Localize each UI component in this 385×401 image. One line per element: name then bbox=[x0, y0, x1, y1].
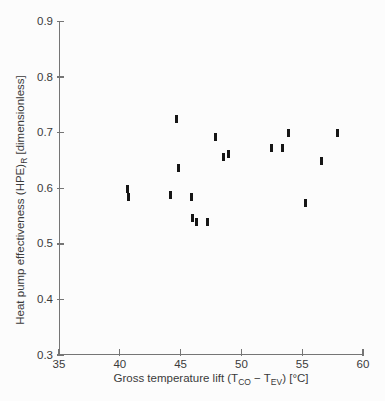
data-point-marker bbox=[169, 191, 172, 199]
y-axis-tick bbox=[57, 76, 64, 77]
x-axis-tick bbox=[119, 349, 120, 356]
y-axis-title-subscript: R bbox=[19, 158, 29, 164]
x-axis-tick-label: 60 bbox=[357, 358, 370, 371]
data-point-marker bbox=[304, 199, 307, 207]
x-axis-title-units: ) [°C] bbox=[282, 372, 308, 384]
data-point-marker bbox=[227, 150, 230, 158]
y-axis-tick bbox=[57, 243, 64, 244]
plot-area bbox=[59, 22, 363, 356]
x-axis-tick-label: 35 bbox=[53, 358, 66, 371]
x-axis-tick bbox=[180, 349, 181, 356]
x-axis-tick bbox=[241, 349, 242, 356]
x-axis-tick-label: 50 bbox=[235, 358, 248, 371]
data-point-marker bbox=[127, 193, 130, 201]
data-point-marker bbox=[214, 133, 217, 141]
y-axis-tick-label: 0.9 bbox=[11, 15, 53, 28]
x-axis-tick-label: 45 bbox=[174, 358, 187, 371]
data-point-marker bbox=[270, 144, 273, 152]
data-point-marker bbox=[287, 129, 290, 137]
data-point-marker bbox=[320, 157, 323, 165]
y-axis-tick bbox=[57, 354, 64, 355]
data-point-marker bbox=[281, 144, 284, 152]
x-axis-tick-label: 55 bbox=[296, 358, 309, 371]
x-axis-title: Gross temperature lift (TCO − TEV) [°C] bbox=[114, 372, 309, 384]
x-axis-tick bbox=[302, 349, 303, 356]
data-point-marker bbox=[177, 164, 180, 172]
x-axis-title-subscript-co: CO bbox=[238, 377, 251, 387]
x-axis-tick-label: 40 bbox=[113, 358, 126, 371]
y-axis-tick-label: 0.3 bbox=[11, 349, 53, 362]
data-point-marker bbox=[206, 218, 209, 226]
y-axis-title-units: [dimensionless] bbox=[14, 75, 26, 157]
y-axis-tick bbox=[57, 132, 64, 133]
data-point-marker bbox=[175, 115, 178, 123]
data-point-marker bbox=[336, 129, 339, 137]
y-axis-tick bbox=[57, 21, 64, 22]
y-axis-title: Heat pump effectiveness (HPE)R [dimensio… bbox=[14, 75, 26, 324]
scatter-plot-figure: 3540455055600.30.40.50.60.70.80.9 Heat p… bbox=[0, 0, 385, 401]
x-axis-title-subscript-ev: EV bbox=[271, 377, 282, 387]
x-axis-title-text: Gross temperature lift (T bbox=[114, 372, 239, 384]
data-point-marker bbox=[195, 218, 198, 226]
y-axis-tick bbox=[57, 299, 64, 300]
x-axis-tick bbox=[362, 349, 363, 356]
x-axis-title-minus: − T bbox=[251, 372, 271, 384]
y-axis-tick bbox=[57, 188, 64, 189]
data-point-marker bbox=[222, 153, 225, 161]
data-point-marker bbox=[191, 214, 194, 222]
data-point-marker bbox=[190, 193, 193, 201]
y-axis-title-text: Heat pump effectiveness (HPE) bbox=[14, 164, 26, 325]
